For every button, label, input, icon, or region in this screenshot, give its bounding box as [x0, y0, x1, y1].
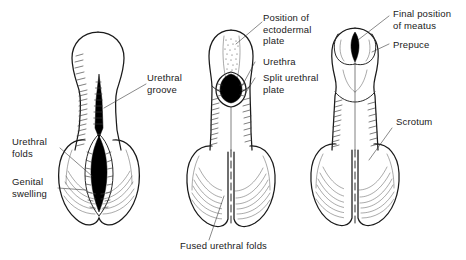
label-split-urethral-plate: Split urethral plate — [263, 72, 318, 95]
label-scrotum: Scrotum — [396, 116, 432, 128]
label-final-position-of-meatus: Final position of meatus — [393, 8, 451, 31]
label-urethra: Urethra — [263, 56, 296, 68]
label-position-of-ectodermal-plate: Position of ectodermal plate — [263, 12, 312, 47]
genital-development-figure: .o { fill:none; stroke:#1a1a1a; stroke-w… — [0, 0, 466, 260]
label-prepuce: Prepuce — [393, 39, 429, 51]
label-urethral-groove: Urethral groove — [147, 72, 182, 95]
label-genital-swelling: Genital swelling — [12, 176, 47, 199]
label-fused-urethral-folds: Fused urethral folds — [180, 240, 267, 252]
label-urethral-folds: Urethral folds — [12, 136, 47, 159]
